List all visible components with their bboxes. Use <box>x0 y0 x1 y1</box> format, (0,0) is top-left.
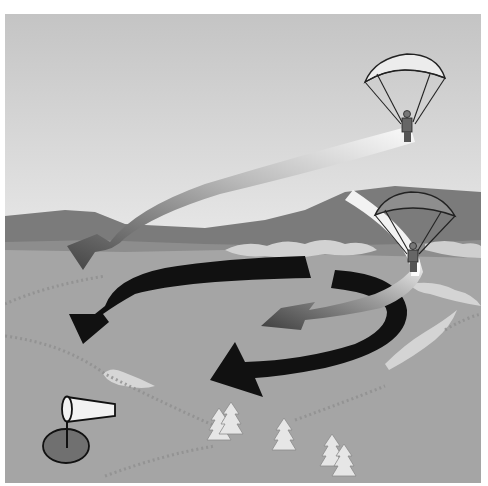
diagram-caption: Paraglider landing approach illustration <box>0 0 1 1</box>
illustration-frame <box>5 14 481 483</box>
